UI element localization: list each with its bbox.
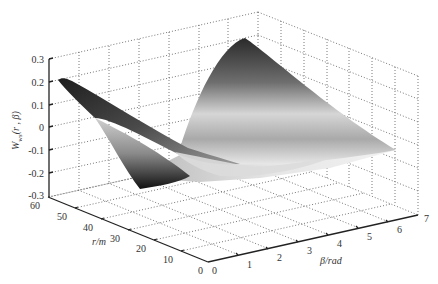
svg-text:0.3: 0.3 — [32, 54, 45, 65]
svg-text:4: 4 — [337, 238, 342, 249]
svg-text:10: 10 — [163, 254, 173, 265]
beta-tick-labels: 0 1 2 3 4 5 6 7 — [212, 213, 429, 276]
svg-text:Wws(r , β): Wws(r , β) — [10, 111, 24, 150]
svg-text:-0.1: -0.1 — [28, 145, 44, 156]
svg-text:20: 20 — [136, 243, 146, 254]
svg-text:6: 6 — [397, 224, 402, 235]
svg-text:0.2: 0.2 — [32, 77, 45, 88]
svg-text:0: 0 — [39, 122, 44, 133]
beta-ticks — [236, 220, 388, 255]
beta-axis-label: β/rad — [319, 255, 343, 266]
svg-text:40: 40 — [83, 222, 93, 233]
svg-text:2: 2 — [277, 252, 282, 263]
svg-text:5: 5 — [367, 231, 372, 242]
svg-text:0: 0 — [198, 265, 203, 276]
svg-text:-0.2: -0.2 — [28, 168, 44, 179]
svg-text:0: 0 — [212, 265, 217, 276]
surface-plot: 0.3 0.2 0.1 0 -0.1 -0.2 -0.3 60 50 40 30… — [0, 0, 438, 284]
svg-text:1: 1 — [247, 259, 252, 270]
svg-text:0.1: 0.1 — [32, 100, 45, 111]
svg-text:30: 30 — [110, 233, 120, 244]
r-axis-label: r/m — [92, 236, 106, 247]
svg-text:60: 60 — [30, 200, 40, 211]
z-tick-labels: 0.3 0.2 0.1 0 -0.1 -0.2 -0.3 — [28, 54, 44, 201]
svg-text:50: 50 — [57, 211, 67, 222]
svg-text:7: 7 — [424, 213, 429, 224]
z-axis-label: Wws(r , β) — [10, 111, 24, 150]
svg-text:3: 3 — [307, 245, 312, 256]
r-tick-labels: 60 50 40 30 20 10 0 — [30, 200, 203, 276]
